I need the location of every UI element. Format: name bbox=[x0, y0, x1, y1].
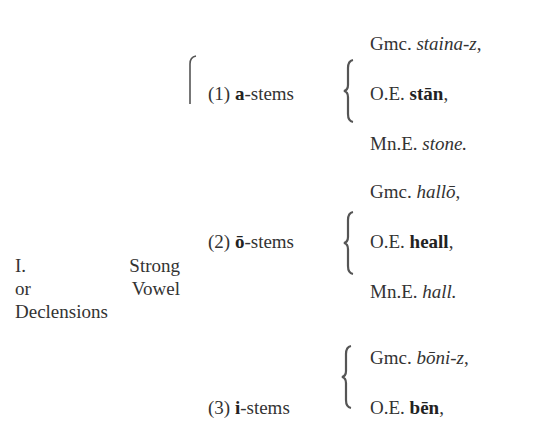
group-label-o-stems: (2) ō-stems bbox=[208, 232, 294, 251]
row-gmc-boni-z: Gmc. bōni-z, bbox=[370, 348, 469, 367]
row-oe-heall: O.E. heall, bbox=[370, 232, 453, 251]
group-label-a-stems: (1) a-stems bbox=[208, 84, 294, 103]
declension-heading: I. Strong or Vowel Declensions bbox=[15, 254, 180, 323]
row-mne-hall: Mn.E. hall. bbox=[370, 282, 457, 301]
brace-o-stems bbox=[342, 210, 356, 276]
row-oe-stan: O.E. stān, bbox=[370, 84, 448, 103]
brace-a-stems bbox=[342, 58, 356, 124]
row-gmc-staina-z: Gmc. staina-z, bbox=[370, 34, 481, 53]
row-mne-stone: Mn.E. stone. bbox=[370, 134, 467, 153]
group-label-i-stems: (3) i-stems bbox=[208, 398, 290, 417]
row-oe-ben: O.E. bēn, bbox=[370, 398, 444, 417]
row-gmc-hallo: Gmc. hallō, bbox=[370, 182, 460, 201]
heading-line-3: Declensions bbox=[15, 300, 180, 323]
heading-line-2: or Vowel bbox=[15, 277, 180, 300]
heading-line-1: I. Strong bbox=[15, 254, 180, 277]
outer-brace-top bbox=[184, 54, 198, 106]
brace-i-stems bbox=[340, 344, 354, 410]
